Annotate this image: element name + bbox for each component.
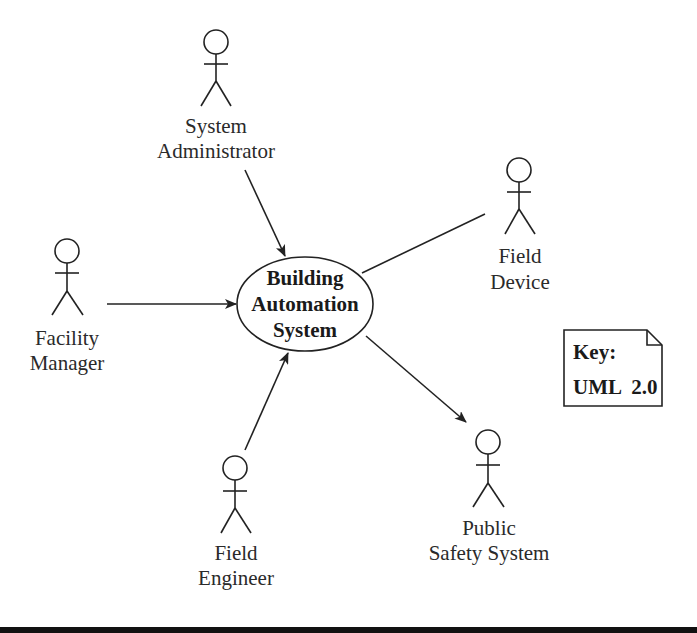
system-label-line1: Building <box>266 266 344 290</box>
actor-label-line2: Safety System <box>429 541 550 565</box>
actor-label-line2: Device <box>490 270 549 294</box>
stick-figure-icon <box>473 430 504 507</box>
actor-system-administrator: System Administrator <box>157 30 275 163</box>
actor-field-device: Field Device <box>490 158 549 294</box>
actor-label-line2: Engineer <box>198 566 274 590</box>
stick-figure-icon <box>201 30 231 106</box>
actor-label-line1: Field <box>214 541 258 565</box>
stick-figure-icon <box>505 158 535 234</box>
actor-label-line1: Facility <box>35 326 100 350</box>
actor-field-engineer: Field Engineer <box>198 456 274 590</box>
connection-sysadmin-to-system <box>245 170 285 256</box>
actor-facility-manager: Facility Manager <box>30 239 105 375</box>
bottom-border <box>0 627 697 633</box>
stick-figure-icon <box>52 239 83 315</box>
actor-public-safety-system: Public Safety System <box>429 430 550 565</box>
actor-label-line2: Manager <box>30 351 105 375</box>
actor-label-line1: Field <box>498 244 542 268</box>
system-label-line2: Automation <box>251 292 359 316</box>
connection-field-engineer-to-system <box>245 353 288 450</box>
actor-label-line1: System <box>185 114 247 138</box>
connection-field-device <box>362 214 485 273</box>
key-title: Key: <box>573 340 616 364</box>
use-case-diagram: System Administrator Field Device Facili… <box>0 0 697 633</box>
actor-label-line1: Public <box>462 516 516 540</box>
connection-system-to-public-safety <box>366 336 466 422</box>
key-note: Key: UML 2.0 <box>564 330 662 406</box>
actor-label-line2: Administrator <box>157 139 275 163</box>
system-use-case: Building Automation System <box>237 257 373 351</box>
system-label-line3: System <box>273 318 338 342</box>
key-notation: UML 2.0 <box>573 375 658 399</box>
stick-figure-icon <box>221 456 251 533</box>
